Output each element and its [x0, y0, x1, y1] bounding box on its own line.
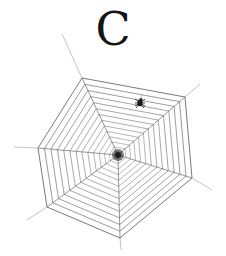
spider-web-illustration: [0, 0, 226, 256]
web-hub: [112, 149, 124, 161]
